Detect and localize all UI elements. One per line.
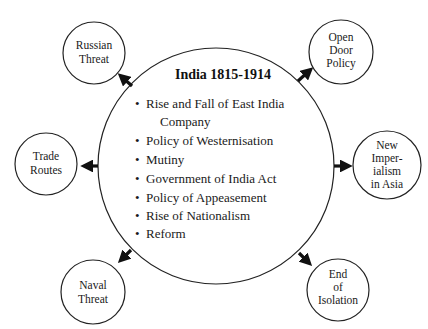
node-label-line: Open: [329, 31, 354, 44]
list-item-text: Rise and Fall of East India: [146, 96, 285, 111]
list-item: • Policy of Westernisation: [135, 133, 274, 148]
bullet-icon: •: [135, 226, 140, 241]
node-label-line: in Asia: [371, 178, 403, 190]
node-label-line: Imper-: [371, 152, 402, 165]
list-item-text: Mutiny: [146, 152, 185, 167]
list-item-text: Company: [160, 114, 211, 129]
node-label-line: ialism: [373, 165, 401, 177]
central-circle: [98, 48, 334, 284]
node-label-line: Russian: [76, 39, 113, 51]
node-label-line: Trade: [33, 150, 59, 162]
list-item-text: Rise of Nationalism: [146, 208, 250, 223]
list-item: • Rise and Fall of East India: [135, 96, 285, 111]
node-open-door-policy: Open Door Policy: [309, 20, 373, 84]
bullet-icon: •: [135, 133, 140, 148]
central-topic: India 1815-1914 • Rise and Fall of East …: [98, 48, 334, 284]
bullet-icon: •: [135, 96, 140, 111]
node-label-line: of: [333, 281, 343, 293]
central-title: India 1815-1914: [175, 67, 271, 82]
node-trade-routes: Trade Routes: [15, 133, 77, 195]
list-item-continuation: Company: [160, 114, 211, 129]
node-label-line: Door: [329, 44, 353, 56]
node-label-line: End: [329, 268, 348, 280]
bullet-icon: •: [135, 208, 140, 223]
node-label-line: New: [376, 139, 398, 151]
mind-map-diagram: India 1815-1914 • Rise and Fall of East …: [0, 0, 428, 329]
list-item: • Government of India Act: [135, 171, 277, 186]
node-label-line: Threat: [79, 53, 110, 65]
node-label-line: Routes: [30, 164, 62, 176]
bullet-icon: •: [135, 152, 140, 167]
arrow-to-russian-threat-icon: [122, 77, 132, 86]
list-item-text: Policy of Appeasement: [146, 190, 267, 205]
node-naval-threat: Naval Threat: [61, 260, 125, 324]
node-new-imperialism-in-asia: New Imper- ialism in Asia: [353, 131, 421, 199]
bullet-icon: •: [135, 190, 140, 205]
node-label-line: Threat: [78, 293, 109, 305]
node-label-line: Policy: [326, 57, 356, 70]
list-item-text: Government of India Act: [146, 171, 277, 186]
node-label-line: Naval: [79, 279, 106, 291]
arrow-to-open-door-policy-icon: [298, 71, 309, 81]
arrow-to-end-of-isolation-icon: [299, 253, 308, 262]
node-russian-threat: Russian Threat: [63, 22, 125, 84]
list-item: • Rise of Nationalism: [135, 208, 250, 223]
node-label-line: Isolation: [318, 294, 358, 306]
node-circle: [61, 260, 125, 324]
list-item: • Policy of Appeasement: [135, 190, 267, 205]
node-end-of-isolation: End of Isolation: [307, 259, 369, 321]
arrow-to-naval-threat-icon: [122, 250, 131, 259]
bullet-icon: •: [135, 171, 140, 186]
list-item-text: Policy of Westernisation: [146, 133, 274, 148]
list-item-text: Reform: [146, 226, 186, 241]
